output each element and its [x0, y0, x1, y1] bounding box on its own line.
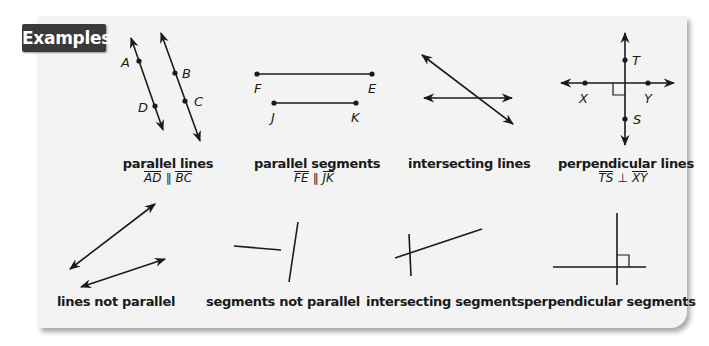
line-ad: AD	[144, 171, 161, 185]
intersecting-lines-figure	[422, 55, 513, 124]
perpendicular-segments-figure	[553, 213, 646, 285]
line-ts: TS	[599, 171, 614, 185]
point-label-t: T	[632, 53, 641, 68]
caption-segments-not-parallel: segments not parallel	[206, 294, 356, 309]
parallel-symbol: ∥	[165, 171, 171, 185]
point-label-j: J	[268, 110, 275, 125]
caption-intersecting-lines: intersecting lines	[408, 156, 528, 171]
point-label-d: D	[138, 100, 148, 115]
caption-intersecting-segments: intersecting segments	[366, 294, 516, 309]
parallel-segments-figure	[254, 71, 374, 105]
segment-jk: JK	[323, 171, 334, 185]
line-bc: BC	[175, 171, 192, 185]
parallel-symbol: ∥	[313, 171, 319, 185]
perpendicular-lines-figure	[561, 33, 674, 145]
notation-parallel-segments: FE∥JK	[254, 171, 374, 185]
point-label-e: E	[368, 81, 377, 96]
point-label-y: Y	[644, 91, 653, 106]
point-label-b: B	[182, 66, 191, 81]
caption-parallel-segments: parallel segments	[254, 156, 374, 171]
line-xy: XY	[632, 171, 648, 185]
notation-parallel-lines: AD∥BC	[118, 171, 218, 185]
point-label-a: A	[120, 55, 130, 70]
caption-perpendicular-lines: perpendicular lines	[558, 156, 688, 171]
lines-not-parallel-figure	[70, 204, 165, 287]
caption-parallel-lines: parallel lines	[118, 156, 218, 171]
perpendicular-symbol: ⊥	[617, 171, 627, 185]
segments-not-parallel-figure	[234, 222, 298, 282]
point-label-f: F	[254, 81, 262, 96]
caption-lines-not-parallel: lines not parallel	[56, 294, 176, 309]
segment-fe: FE	[294, 171, 308, 185]
notation-perpendicular-lines: TS⊥XY	[558, 171, 688, 185]
caption-perpendicular-segments: perpendicular segments	[524, 294, 690, 309]
point-label-c: C	[194, 94, 204, 109]
parallel-lines-figure	[131, 33, 200, 141]
point-label-k: K	[351, 110, 361, 125]
point-label-x: X	[578, 91, 589, 106]
point-label-s: S	[633, 112, 641, 127]
intersecting-segments-figure	[395, 229, 482, 276]
